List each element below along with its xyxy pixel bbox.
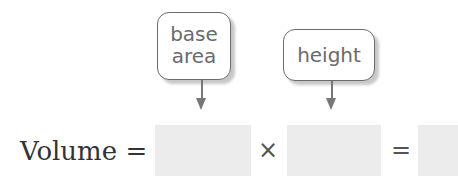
equals-sign: =: [391, 136, 411, 164]
base-area-arrow-line: [201, 80, 203, 100]
base-area-answer-box[interactable]: [155, 125, 251, 176]
base-area-label: base area: [157, 12, 231, 80]
volume-label: Volume =: [20, 136, 147, 166]
base-area-label-line1: base: [158, 23, 230, 45]
times-sign: ×: [258, 136, 278, 164]
height-arrow-icon: [326, 98, 336, 110]
height-label-text: height: [284, 44, 374, 66]
base-area-arrow-icon: [196, 98, 206, 110]
height-label: height: [283, 29, 375, 81]
base-area-label-line2: area: [158, 45, 230, 67]
height-answer-box[interactable]: [287, 125, 381, 176]
volume-answer-box[interactable]: [418, 125, 458, 176]
